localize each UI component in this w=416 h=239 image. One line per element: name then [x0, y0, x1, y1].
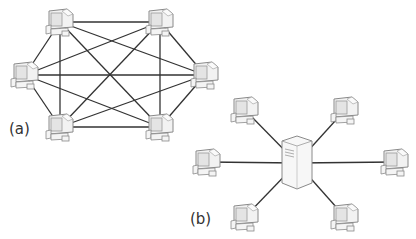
network-devices [11, 9, 408, 231]
computer-icon [331, 204, 358, 231]
computer-icon [11, 62, 38, 89]
computer-icon [191, 62, 218, 89]
panel-label-a: (a) [9, 120, 30, 138]
computer-icon [146, 114, 173, 141]
computer-icon [46, 114, 73, 141]
computer-icon [146, 9, 173, 36]
computer-icon [331, 97, 358, 124]
server-icon [282, 136, 312, 189]
computer-icon [381, 149, 408, 176]
network-link [25, 75, 160, 127]
computer-icon [46, 9, 73, 36]
panel-label-b: (b) [190, 210, 211, 228]
computer-icon [231, 97, 258, 124]
network-topology-diagram [0, 0, 416, 239]
computer-icon [193, 149, 220, 176]
network-link [25, 22, 160, 75]
computer-icon [231, 204, 258, 231]
